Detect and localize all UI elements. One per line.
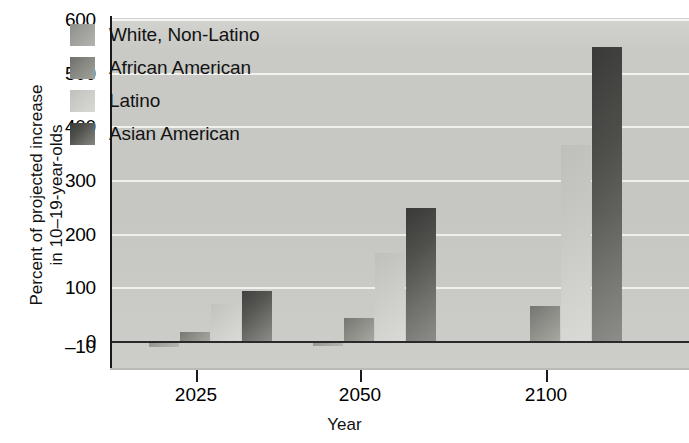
bar-chart-figure: Percent of projected increase in 10–19-y…: [0, 0, 689, 443]
legend-item-label: African American: [109, 57, 251, 79]
x-axis-tick-label: 2050: [315, 384, 405, 406]
legend-item: Latino: [70, 90, 259, 112]
bar: [561, 145, 591, 342]
bar: [406, 208, 436, 342]
legend-item-label: Latino: [109, 90, 160, 112]
y-axis-tick-label: 100: [40, 277, 96, 299]
y-axis-tick-label: 300: [40, 170, 96, 192]
bar: [242, 291, 272, 342]
legend-item: Asian American: [70, 123, 259, 145]
bar: [530, 306, 560, 342]
zero-baseline: [112, 341, 689, 343]
legend-item: African American: [70, 57, 259, 79]
x-axis-tick-mark: [196, 370, 198, 382]
x-axis-tick-label: 2025: [151, 384, 241, 406]
x-axis-tick-mark: [546, 370, 548, 382]
bar: [344, 318, 374, 342]
bar: [211, 304, 241, 342]
legend-swatch-icon: [70, 123, 95, 145]
legend-item-label: Asian American: [109, 123, 240, 145]
legend-item-label: White, Non-Latino: [109, 24, 259, 46]
chart-legend: White, Non-LatinoAfrican AmericanLatinoA…: [70, 24, 259, 145]
y-axis-tick-label: –10: [40, 336, 96, 358]
bar: [375, 253, 405, 342]
legend-item: White, Non-Latino: [70, 24, 259, 46]
legend-swatch-icon: [70, 90, 95, 112]
gridline: [112, 19, 689, 21]
bar: [592, 47, 622, 342]
x-axis-tick-mark: [360, 370, 362, 382]
legend-swatch-icon: [70, 57, 95, 79]
x-axis-title: Year: [0, 415, 689, 435]
x-axis-tick-label: 2100: [501, 384, 591, 406]
legend-swatch-icon: [70, 24, 95, 46]
y-axis-tick-label: 200: [40, 224, 96, 246]
